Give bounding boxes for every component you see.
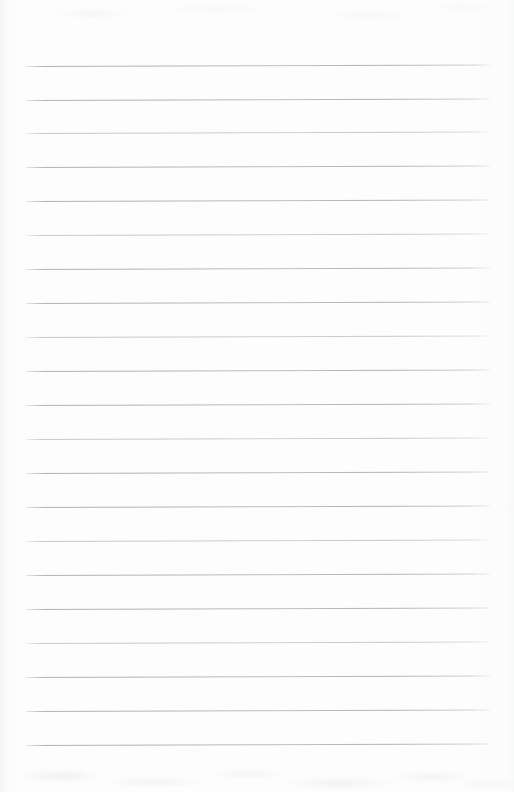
- rule-line: [26, 99, 490, 101]
- rule-line: [26, 370, 490, 372]
- rule-line: [26, 506, 490, 508]
- rule-line: [26, 234, 490, 236]
- rule-line: [26, 710, 490, 712]
- rule-line: [26, 676, 490, 678]
- rule-line: [26, 472, 490, 474]
- rule-line: [26, 608, 490, 610]
- rule-line: [26, 438, 490, 440]
- ruled-lines-container: [0, 0, 514, 792]
- rule-line: [26, 200, 490, 202]
- rule-line: [26, 404, 490, 406]
- rule-line: [26, 166, 490, 168]
- scanned-page: [0, 0, 514, 792]
- rule-line: [26, 574, 490, 576]
- rule-line: [26, 302, 490, 304]
- rule-line: [26, 65, 490, 67]
- rule-line: [26, 132, 490, 134]
- rule-line: [26, 744, 490, 746]
- rule-line: [26, 642, 490, 644]
- rule-line: [26, 268, 490, 270]
- rule-line: [26, 540, 490, 542]
- rule-line: [26, 336, 490, 338]
